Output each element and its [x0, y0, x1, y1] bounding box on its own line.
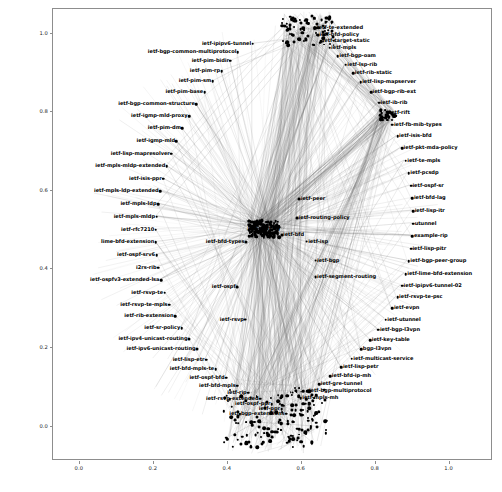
- graph-node-cluster[interactable]: [385, 116, 388, 119]
- graph-node[interactable]: [157, 203, 160, 206]
- graph-node[interactable]: [162, 177, 165, 180]
- graph-node-cluster[interactable]: [387, 114, 389, 116]
- graph-node-cluster[interactable]: [294, 409, 297, 412]
- graph-node-cluster[interactable]: [271, 436, 274, 439]
- graph-node[interactable]: [154, 241, 157, 244]
- graph-node-cluster[interactable]: [223, 441, 225, 443]
- graph-node-cluster[interactable]: [270, 430, 274, 434]
- graph-node-cluster[interactable]: [307, 428, 310, 431]
- graph-node-cluster[interactable]: [257, 426, 260, 429]
- graph-node-cluster[interactable]: [306, 410, 309, 413]
- graph-node[interactable]: [251, 42, 254, 45]
- graph-node[interactable]: [195, 103, 198, 106]
- graph-node[interactable]: [225, 376, 228, 379]
- graph-node-cluster[interactable]: [298, 387, 300, 389]
- graph-node-cluster[interactable]: [384, 109, 386, 111]
- graph-node[interactable]: [220, 70, 223, 73]
- graph-node-cluster[interactable]: [291, 437, 295, 441]
- graph-node-cluster[interactable]: [324, 21, 327, 24]
- graph-node-cluster[interactable]: [248, 220, 251, 223]
- graph-node[interactable]: [180, 327, 183, 330]
- graph-node-cluster[interactable]: [308, 403, 311, 406]
- graph-node-cluster[interactable]: [262, 427, 266, 431]
- graph-node[interactable]: [168, 303, 171, 306]
- graph-node[interactable]: [188, 115, 191, 118]
- graph-node[interactable]: [203, 91, 206, 94]
- graph-node[interactable]: [154, 229, 157, 232]
- graph-node-cluster[interactable]: [233, 419, 236, 422]
- graph-node-cluster[interactable]: [266, 235, 268, 237]
- graph-node[interactable]: [155, 254, 158, 257]
- graph-node[interactable]: [188, 338, 191, 341]
- graph-node[interactable]: [236, 286, 239, 289]
- graph-node-cluster[interactable]: [235, 422, 237, 424]
- graph-node-cluster[interactable]: [289, 438, 292, 441]
- graph-node[interactable]: [236, 384, 239, 387]
- graph-node[interactable]: [163, 291, 166, 294]
- graph-node-cluster[interactable]: [298, 427, 301, 430]
- graph-node-cluster[interactable]: [310, 427, 313, 430]
- graph-node[interactable]: [160, 279, 163, 282]
- graph-node-cluster[interactable]: [281, 404, 284, 407]
- graph-node[interactable]: [237, 51, 240, 54]
- graph-node[interactable]: [205, 358, 208, 361]
- graph-node-cluster[interactable]: [295, 404, 298, 407]
- graph-node-cluster[interactable]: [245, 421, 247, 423]
- graph-node-cluster[interactable]: [268, 439, 272, 443]
- graph-node-cluster[interactable]: [292, 34, 295, 37]
- graph-node-cluster[interactable]: [278, 394, 280, 396]
- graph-node-cluster[interactable]: [291, 391, 294, 394]
- graph-node[interactable]: [229, 60, 232, 63]
- graph-node-cluster[interactable]: [299, 440, 303, 444]
- graph-node-cluster[interactable]: [316, 426, 319, 429]
- graph-node-cluster[interactable]: [259, 221, 262, 224]
- graph-node-cluster[interactable]: [298, 434, 300, 436]
- graph-node-cluster[interactable]: [312, 43, 315, 46]
- graph-node-cluster[interactable]: [266, 432, 269, 435]
- graph-node-cluster[interactable]: [257, 419, 261, 423]
- graph-node[interactable]: [211, 80, 214, 83]
- graph-node-cluster[interactable]: [320, 19, 323, 22]
- graph-node[interactable]: [214, 368, 217, 371]
- graph-node-cluster[interactable]: [262, 441, 265, 444]
- graph-node-cluster[interactable]: [254, 221, 257, 224]
- graph-node[interactable]: [159, 190, 162, 193]
- graph-node[interactable]: [244, 318, 247, 321]
- graph-node-cluster[interactable]: [257, 431, 260, 434]
- graph-node[interactable]: [166, 165, 169, 168]
- graph-node-cluster[interactable]: [302, 26, 306, 30]
- graph-node-cluster[interactable]: [307, 418, 309, 420]
- graph-node-cluster[interactable]: [380, 112, 383, 115]
- graph-node-cluster[interactable]: [321, 402, 323, 404]
- graph-node[interactable]: [196, 348, 199, 351]
- graph-node-cluster[interactable]: [285, 394, 289, 398]
- graph-node[interactable]: [259, 398, 262, 401]
- graph-node-cluster[interactable]: [292, 414, 294, 416]
- graph-node[interactable]: [175, 140, 178, 143]
- graph-node[interactable]: [285, 413, 288, 416]
- graph-node-cluster[interactable]: [285, 40, 289, 44]
- graph-node[interactable]: [170, 152, 173, 155]
- graph-node[interactable]: [247, 391, 250, 394]
- graph-node[interactable]: [181, 127, 184, 130]
- graph-node-cluster[interactable]: [307, 419, 310, 422]
- graph-node[interactable]: [174, 315, 177, 318]
- graph-node-cluster[interactable]: [305, 433, 307, 435]
- graph-node-cluster[interactable]: [325, 429, 327, 431]
- graph-node-cluster[interactable]: [236, 438, 239, 441]
- graph-node-cluster[interactable]: [302, 390, 305, 393]
- graph-node-cluster[interactable]: [290, 403, 294, 407]
- graph-node-cluster[interactable]: [277, 233, 280, 236]
- graph-node-cluster[interactable]: [300, 409, 303, 412]
- graph-node-cluster[interactable]: [238, 422, 240, 424]
- graph-node-cluster[interactable]: [263, 433, 265, 435]
- graph-node[interactable]: [155, 215, 158, 218]
- graph-node-cluster[interactable]: [302, 445, 305, 448]
- graph-node-cluster[interactable]: [231, 405, 234, 408]
- graph-node-cluster[interactable]: [292, 40, 295, 43]
- graph-node[interactable]: [157, 266, 160, 269]
- graph-node-cluster[interactable]: [304, 402, 307, 405]
- graph-node-cluster[interactable]: [293, 26, 295, 28]
- graph-node-cluster[interactable]: [323, 44, 325, 46]
- graph-node-cluster[interactable]: [379, 117, 383, 121]
